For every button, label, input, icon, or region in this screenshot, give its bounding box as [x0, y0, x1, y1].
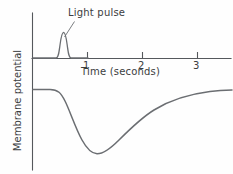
light-pulse-annotation-label: Light pulse: [68, 7, 125, 18]
y-axis-title: Membrane potential: [12, 41, 23, 161]
light-pulse-trace: [33, 32, 88, 58]
plot-canvas: [0, 0, 233, 174]
light-pulse-leader-line: [65, 22, 75, 38]
x-axis-title: Time (seconds): [81, 66, 160, 77]
membrane-potential-trace: [33, 90, 232, 154]
membrane-potential-figure: Light pulse 1 2 3 Time (seconds) Membran…: [0, 0, 233, 174]
x-tick-label-3: 3: [193, 60, 199, 71]
